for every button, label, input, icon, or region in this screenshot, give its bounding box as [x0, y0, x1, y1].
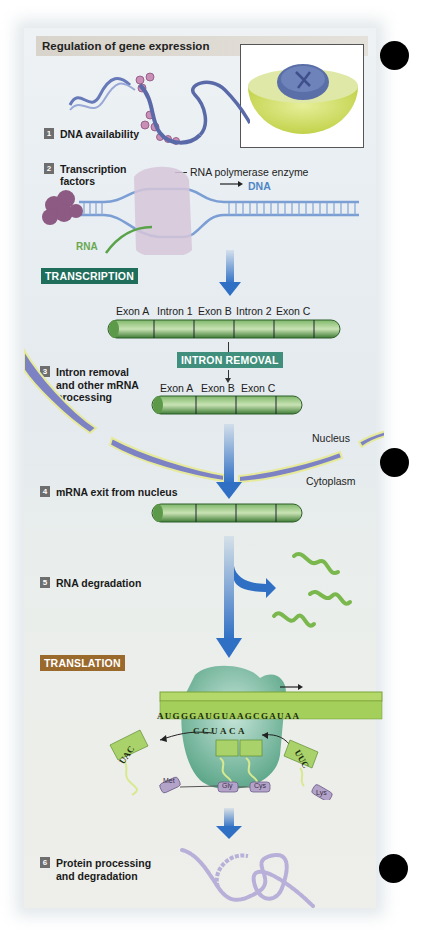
- step-number: 4: [40, 486, 50, 497]
- marker-dot: [379, 854, 408, 883]
- ribosome-illustration: [100, 660, 400, 800]
- step-label: mRNA exit from nucleus: [56, 486, 178, 499]
- segment-label: Exon C: [276, 305, 310, 317]
- segment-label: Exon A: [116, 305, 149, 317]
- dna-label: DNA: [248, 180, 271, 192]
- polypeptide-chain: [178, 842, 318, 912]
- step-number: 5: [40, 577, 50, 588]
- step-label-line2: and degradation: [56, 870, 138, 883]
- cell-inset-image: [240, 44, 364, 148]
- transcription-tag: TRANSCRIPTION: [41, 268, 138, 284]
- step-number: 1: [44, 128, 54, 139]
- flow-arrow-down: [216, 808, 242, 840]
- amino-acid-gly: Gly: [222, 782, 233, 789]
- amino-acid-met: Met: [163, 777, 175, 784]
- segment-label: Intron 2: [236, 305, 272, 317]
- step-label-line1: Protein processing: [56, 857, 151, 870]
- degraded-rna-fragments: [270, 548, 360, 648]
- segment-label: Intron 1: [157, 305, 193, 317]
- flow-arrow-down: [216, 424, 242, 500]
- marker-dot: [380, 448, 409, 477]
- segment-label: Exon B: [198, 305, 232, 317]
- flow-arrow-down: [218, 250, 242, 298]
- rna-label: RNA: [76, 241, 98, 252]
- step-label: RNA degradation: [56, 577, 141, 590]
- amino-acid-lys: Lys: [316, 789, 327, 796]
- step-number: 6: [40, 857, 50, 868]
- nucleus-label: Nucleus: [312, 432, 350, 444]
- trna-anticodons: CCUACA: [193, 726, 247, 736]
- amino-acid-cys: Cys: [254, 782, 266, 789]
- cytoplasmic-mrna-strand: [150, 502, 306, 524]
- diagram-title: Regulation of gene expression: [42, 40, 209, 52]
- cytoplasm-label: Cytoplasm: [306, 475, 356, 487]
- mrna-codon-sequence: AUGGGAUGUAAGCGAUAA: [157, 711, 300, 721]
- step-label: DNA availability: [60, 128, 139, 141]
- marker-dot: [380, 41, 409, 70]
